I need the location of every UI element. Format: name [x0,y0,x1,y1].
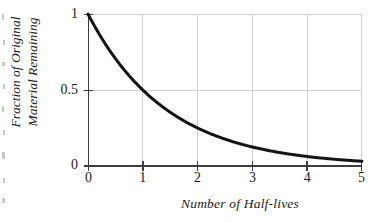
axes [88,13,362,167]
ytick-label-0-5: 0.5 [44,82,78,98]
x-axis-title: Number of Half-lives [120,196,360,212]
xtick-label-3: 3 [242,170,262,186]
ytick-label-1: 1 [44,6,78,22]
xtick-label-1: 1 [133,170,153,186]
tick-marks [84,15,362,172]
plot-canvas [0,0,382,223]
figure-exponential-decay: 1 0.5 0 0 1 2 3 4 5 Number of Half-lives… [0,0,382,223]
xtick-label-2: 2 [188,170,208,186]
ytick-label-0: 0 [44,157,78,173]
xtick-label-0: 0 [79,170,99,186]
xtick-label-4: 4 [297,170,317,186]
y-axis-title-line-2: Material Remaining [24,0,41,152]
decay-curve [88,14,362,161]
gridlines [88,14,362,166]
xtick-label-5: 5 [352,170,372,186]
y-axis-title-line-1: Fraction of Original [7,0,24,152]
y-axis-title: Fraction of Original Material Remaining [7,0,47,152]
